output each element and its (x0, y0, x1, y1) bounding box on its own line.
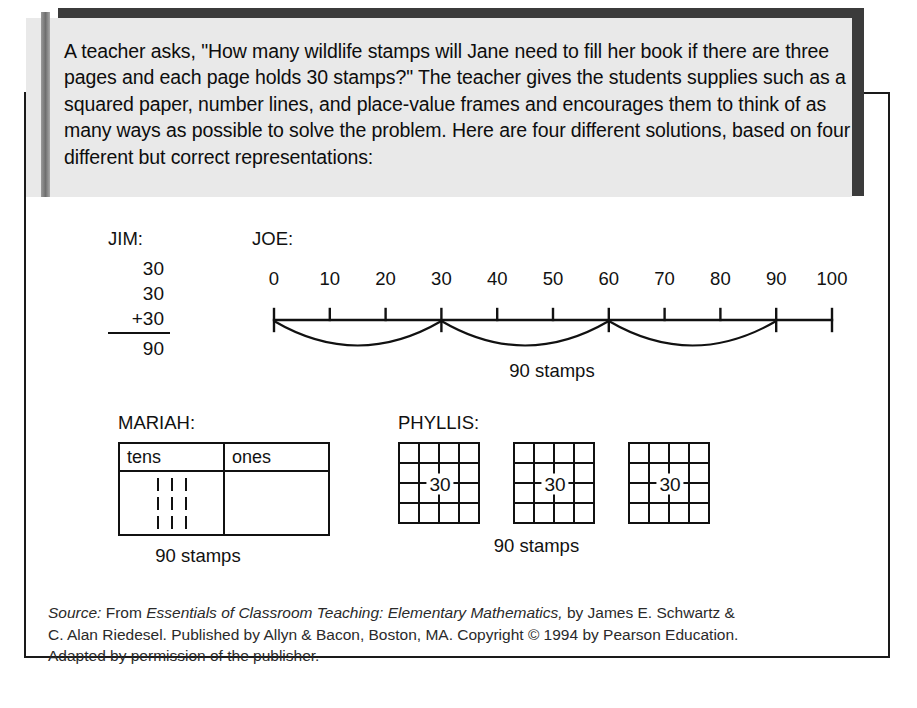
grid-cell (575, 444, 595, 464)
tally-mark (157, 497, 159, 510)
jim-addition-column: 30 30 +30 90 (108, 256, 170, 361)
jump-arc (441, 321, 608, 346)
grid-cell (670, 444, 690, 464)
source-prefix: Source: (48, 604, 101, 621)
grid-cell (650, 444, 670, 464)
grid-cell (535, 504, 555, 524)
tick-label: 90 (766, 268, 787, 290)
grid-cell (630, 504, 650, 524)
joe-label: JOE: (252, 228, 293, 250)
grid-cell (515, 464, 535, 484)
joe-caption: 90 stamps (252, 360, 852, 382)
page-root: A teacher asks, "How many wildlife stamp… (0, 0, 917, 708)
tens-tally-group (120, 475, 223, 532)
jump-arc (274, 321, 441, 346)
tick-label: 30 (431, 268, 452, 290)
tick-label: 10 (320, 268, 341, 290)
mariah-label: MARIAH: (118, 412, 330, 434)
jim-addend-1: 30 (108, 256, 170, 281)
tick-label: 40 (487, 268, 508, 290)
tally-mark (185, 516, 187, 529)
tick-label: 70 (654, 268, 675, 290)
grid-cell (575, 504, 595, 524)
grid-cell (515, 504, 535, 524)
source-authors: by James E. Schwartz & (563, 604, 735, 621)
grid-cell (650, 504, 670, 524)
source-line-2: C. Alan Riedesel. Published by Allyn & B… (48, 624, 838, 646)
grid-cell (400, 444, 420, 464)
grid-cell (690, 444, 710, 464)
grid-cell (515, 484, 535, 504)
grid-value-label: 30 (426, 474, 453, 495)
source-from: From (101, 604, 146, 621)
squared-paper-grid: 30 (398, 442, 480, 524)
grid-cell (555, 504, 575, 524)
number-line-tick-labels: 0102030405060708090100 (252, 268, 852, 292)
number-line-svg (252, 294, 852, 364)
tally-mark (185, 497, 187, 510)
jump-arc (609, 321, 776, 346)
grid-cell (690, 464, 710, 484)
grid-cell (460, 464, 480, 484)
source-title: Essentials of Classroom Teaching: Elemen… (146, 604, 562, 621)
mariah-caption: 90 stamps (118, 545, 278, 567)
grid-cell (460, 504, 480, 524)
column-header-ones: ones (224, 443, 329, 471)
tick-label: 50 (543, 268, 564, 290)
grid-cell (555, 444, 575, 464)
tick-label: 20 (375, 268, 396, 290)
jim-sum: 90 (108, 334, 170, 361)
column-header-tens: tens (119, 443, 224, 471)
table-header-row: tens ones (119, 443, 329, 471)
grid-cell (670, 504, 690, 524)
tick-label: 0 (269, 268, 279, 290)
grid-cell (400, 504, 420, 524)
tally-mark (185, 478, 187, 491)
prompt-paragraph: A teacher asks, "How many wildlife stamp… (64, 38, 854, 170)
jim-addend-2: 30 (108, 281, 170, 306)
grid-cell (460, 444, 480, 464)
squared-paper-group: 303030 (398, 442, 710, 524)
tick-label: 100 (817, 268, 848, 290)
tally-mark (157, 478, 159, 491)
header-accent-bar (41, 12, 50, 197)
grid-cell (575, 484, 595, 504)
squared-paper-grid: 30 (628, 442, 710, 524)
grid-cell (630, 444, 650, 464)
joe-solution: JOE: 0102030405060708090100 90 stamps (252, 228, 293, 250)
tally-mark (171, 478, 173, 491)
grid-cell (420, 504, 440, 524)
grid-value-label: 30 (541, 474, 568, 495)
cell-tens (119, 471, 224, 535)
tick-label: 80 (710, 268, 731, 290)
grid-cell (400, 464, 420, 484)
tally-mark (171, 516, 173, 529)
phyllis-label: PHYLLIS: (398, 412, 710, 434)
source-line-3: Adapted by permission of the publisher. (48, 645, 838, 667)
source-note: Source: From Essentials of Classroom Tea… (48, 602, 838, 667)
cell-ones (224, 471, 329, 535)
grid-cell (440, 444, 460, 464)
squared-paper-grid: 30 (513, 442, 595, 524)
grid-cell (460, 484, 480, 504)
grid-cell (690, 504, 710, 524)
source-line-1: Source: From Essentials of Classroom Tea… (48, 602, 838, 624)
number-line-figure: 0102030405060708090100 90 stamps (252, 268, 852, 373)
grid-value-label: 30 (656, 474, 683, 495)
place-value-frame: tens ones (118, 442, 330, 536)
grid-cell (440, 504, 460, 524)
table-row (119, 471, 329, 535)
grid-cell (400, 484, 420, 504)
jim-addend-3: +30 (108, 306, 170, 334)
grid-cell (630, 464, 650, 484)
tick-label: 60 (599, 268, 620, 290)
grid-cell (535, 444, 555, 464)
tally-mark (171, 497, 173, 510)
jim-label: JIM: (108, 228, 170, 250)
mariah-solution: MARIAH: tens ones 90 stamps (118, 412, 330, 567)
grid-cell (515, 444, 535, 464)
tally-mark (157, 516, 159, 529)
grid-cell (420, 444, 440, 464)
phyllis-caption: 90 stamps (398, 535, 675, 557)
grid-cell (630, 484, 650, 504)
